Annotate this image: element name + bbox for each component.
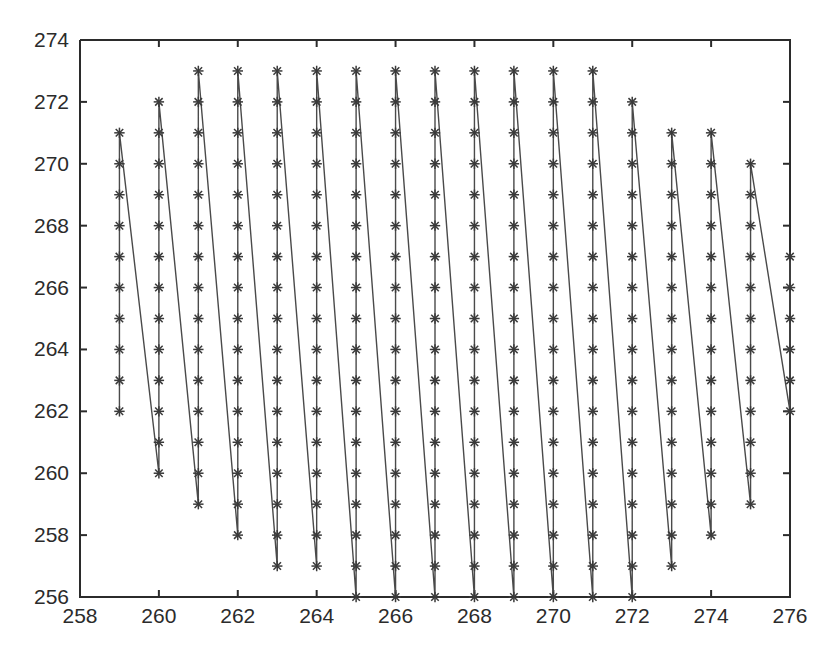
data-point-marker — [351, 499, 361, 509]
data-point-marker — [193, 128, 203, 138]
data-point-marker — [114, 406, 124, 416]
data-point-marker — [311, 313, 321, 323]
data-point-marker — [430, 344, 440, 354]
data-point-marker — [469, 406, 479, 416]
data-point-marker — [588, 561, 598, 571]
data-point-marker — [706, 128, 716, 138]
data-point-marker — [588, 468, 598, 478]
data-point-marker — [351, 468, 361, 478]
data-point-marker — [272, 437, 282, 447]
data-point-marker — [627, 313, 637, 323]
data-point-marker — [114, 344, 124, 354]
scatter-line-plot: 2582602622642662682702722742762562582602… — [0, 0, 819, 658]
data-point-marker — [311, 375, 321, 385]
data-point-marker — [666, 344, 676, 354]
data-point-marker — [193, 406, 203, 416]
data-point-marker — [627, 406, 637, 416]
data-point-marker — [114, 313, 124, 323]
data-point-marker — [548, 344, 558, 354]
sawtooth-polyline — [119, 71, 790, 597]
data-point-marker — [351, 561, 361, 571]
x-tick-label-264: 264 — [299, 604, 334, 627]
data-point-marker — [193, 344, 203, 354]
data-point-marker — [509, 530, 519, 540]
data-point-marker — [627, 468, 637, 478]
data-point-marker — [351, 159, 361, 169]
data-point-marker — [154, 437, 164, 447]
data-point-marker — [548, 561, 558, 571]
data-point-marker — [509, 468, 519, 478]
data-point-marker — [430, 499, 440, 509]
data-point-marker — [351, 313, 361, 323]
data-point-marker — [193, 190, 203, 200]
data-point-marker — [311, 344, 321, 354]
data-point-marker — [588, 220, 598, 230]
data-point-marker — [390, 592, 400, 602]
data-point-marker — [193, 220, 203, 230]
data-point-marker — [272, 406, 282, 416]
data-point-marker — [666, 190, 676, 200]
data-point-marker — [390, 190, 400, 200]
data-point-marker — [272, 282, 282, 292]
data-point-marker — [509, 66, 519, 76]
data-point-marker — [114, 251, 124, 261]
data-point-marker — [154, 282, 164, 292]
data-point-marker — [351, 375, 361, 385]
data-point-marker — [785, 313, 795, 323]
data-point-marker — [390, 530, 400, 540]
data-point-marker — [548, 190, 558, 200]
data-point-marker — [154, 406, 164, 416]
data-point-marker — [114, 282, 124, 292]
data-point-marker — [548, 406, 558, 416]
data-point-marker — [233, 530, 243, 540]
data-point-marker — [706, 499, 716, 509]
data-point-marker — [706, 530, 716, 540]
data-point-marker — [548, 468, 558, 478]
data-point-marker — [430, 406, 440, 416]
data-point-marker — [311, 499, 321, 509]
data-point-marker — [745, 251, 755, 261]
data-point-marker — [469, 66, 479, 76]
data-point-marker — [390, 561, 400, 571]
data-point-marker — [390, 159, 400, 169]
data-point-marker — [351, 344, 361, 354]
data-point-marker — [509, 561, 519, 571]
data-point-marker — [706, 190, 716, 200]
data-point-marker — [666, 468, 676, 478]
data-point-marker — [588, 66, 598, 76]
data-point-marker — [706, 468, 716, 478]
data-point-marker — [430, 375, 440, 385]
x-tick-label-268: 268 — [457, 604, 492, 627]
data-point-marker — [233, 128, 243, 138]
data-point-marker — [785, 406, 795, 416]
data-point-marker — [548, 128, 558, 138]
data-point-marker — [233, 406, 243, 416]
data-point-marker — [469, 97, 479, 107]
data-point-marker — [509, 251, 519, 261]
y-tick-label-268: 268 — [34, 214, 69, 237]
data-point-marker — [666, 499, 676, 509]
data-point-marker — [509, 190, 519, 200]
data-point-marker — [430, 97, 440, 107]
data-point-marker — [351, 66, 361, 76]
data-point-marker — [272, 499, 282, 509]
data-point-marker — [390, 406, 400, 416]
y-tick-label-272: 272 — [34, 90, 69, 113]
data-point-marker — [311, 406, 321, 416]
x-tick-label-272: 272 — [615, 604, 650, 627]
data-point-marker — [627, 499, 637, 509]
data-point-marker — [745, 375, 755, 385]
data-point-marker — [588, 190, 598, 200]
data-point-marker — [193, 468, 203, 478]
data-point-marker — [627, 344, 637, 354]
data-point-marker — [548, 66, 558, 76]
data-point-marker — [311, 220, 321, 230]
data-point-marker — [233, 66, 243, 76]
data-point-marker — [785, 344, 795, 354]
data-point-marker — [469, 159, 479, 169]
data-point-marker — [588, 282, 598, 292]
data-point-marker — [154, 97, 164, 107]
data-point-marker — [627, 437, 637, 447]
data-point-marker — [272, 561, 282, 571]
data-point-marker — [311, 282, 321, 292]
